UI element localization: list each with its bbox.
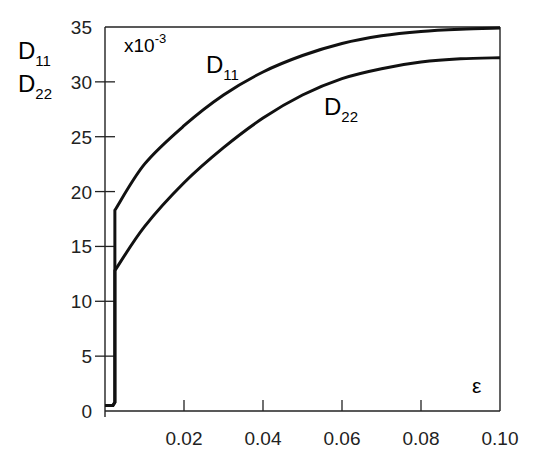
- svg-text:15: 15: [71, 236, 92, 257]
- svg-text:25: 25: [71, 127, 92, 148]
- chart: 05101520253035 0.020.040.060.080.10 D11 …: [0, 0, 538, 460]
- plot-frame: [105, 27, 500, 417]
- svg-text:35: 35: [71, 17, 92, 38]
- series-d11-line: [105, 28, 500, 405]
- y-label-d22: D22: [18, 70, 52, 102]
- y-axis-ticks: 05101520253035: [71, 17, 115, 422]
- x-axis-ticks: 0.020.040.060.080.10: [166, 400, 519, 449]
- series-d22-line: [105, 58, 500, 406]
- svg-text:10: 10: [71, 291, 92, 312]
- curve-label-d11: D11: [206, 51, 239, 83]
- svg-text:20: 20: [71, 182, 92, 203]
- y-scale-note: x10-3: [124, 31, 166, 56]
- y-label-d11: D11: [18, 37, 51, 69]
- svg-text:0.10: 0.10: [482, 428, 519, 449]
- curve-label-d22: D22: [324, 93, 358, 125]
- svg-text:0.04: 0.04: [245, 428, 282, 449]
- svg-text:0: 0: [81, 401, 92, 422]
- svg-text:0.08: 0.08: [403, 428, 440, 449]
- svg-text:5: 5: [81, 346, 92, 367]
- svg-text:0.02: 0.02: [166, 428, 203, 449]
- x-axis-label: ε: [472, 374, 481, 397]
- svg-text:30: 30: [71, 72, 92, 93]
- svg-text:0.06: 0.06: [324, 428, 361, 449]
